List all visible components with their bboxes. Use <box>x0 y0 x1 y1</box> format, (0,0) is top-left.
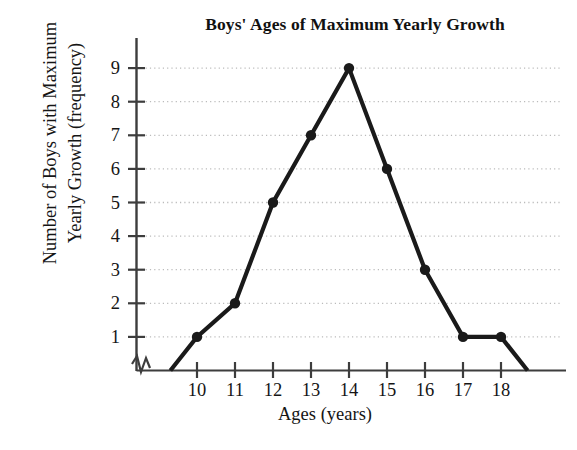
data-point-marker <box>382 164 392 174</box>
x-axis-tick-label: 16 <box>405 381 445 400</box>
y-axis-tick-label: 6 <box>96 160 120 179</box>
x-axis-tick-label: 12 <box>253 381 293 400</box>
x-axis-tick-label: 18 <box>481 381 521 400</box>
chart-page: Boys' Ages of Maximum Yearly Growth Numb… <box>0 0 577 450</box>
data-point-marker <box>496 332 506 342</box>
y-axis-tick-label: 7 <box>96 126 120 145</box>
x-axis-tick-label: 17 <box>443 381 483 400</box>
data-point-marker <box>192 332 202 342</box>
gridlines <box>137 68 562 337</box>
y-axis-tick-label: 9 <box>96 59 120 78</box>
y-axis-tick-label: 3 <box>96 261 120 280</box>
x-axis-tick-label: 10 <box>177 381 217 400</box>
data-point-marker <box>458 332 468 342</box>
data-point-markers <box>192 63 506 342</box>
y-axis-tick-label: 1 <box>96 328 120 347</box>
y-axis-tick-label: 5 <box>96 194 120 213</box>
x-axis-tick-label: 11 <box>215 381 255 400</box>
data-point-marker <box>344 63 354 73</box>
x-axis-tick-label: 14 <box>329 381 369 400</box>
x-axis-label: Ages (years) <box>180 404 470 425</box>
data-point-marker <box>230 298 240 308</box>
axes <box>132 38 566 372</box>
x-axis-tick-label: 13 <box>291 381 331 400</box>
data-point-marker <box>420 265 430 275</box>
y-axis-tick-label: 8 <box>96 93 120 112</box>
x-axis-tick-label: 15 <box>367 381 407 400</box>
data-point-marker <box>268 197 278 207</box>
y-axis-tick-label: 2 <box>96 294 120 313</box>
y-axis-tick-label: 4 <box>96 227 120 246</box>
frequency-polygon-line <box>170 68 527 370</box>
data-point-marker <box>306 130 316 140</box>
